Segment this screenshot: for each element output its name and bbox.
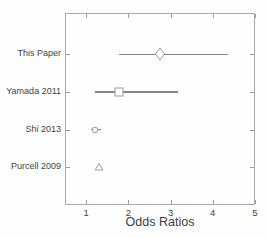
- x-tick-mark: [128, 14, 129, 18]
- y-tick-mark: [250, 167, 254, 168]
- marker-square: [111, 84, 127, 100]
- y-tick-mark: [66, 92, 70, 93]
- ci-line: [95, 91, 178, 93]
- plot-area: [65, 13, 255, 205]
- x-tick-mark: [171, 200, 172, 204]
- forest-plot-figure: This PaperYamada 2011Shi 2013Purcell 200…: [0, 0, 268, 238]
- y-tick-mark: [66, 167, 70, 168]
- x-tick-mark: [213, 200, 214, 204]
- x-tick-mark: [128, 200, 129, 204]
- study-label: Shi 2013: [0, 124, 61, 134]
- marker-diamond: [152, 46, 168, 62]
- x-axis-title: Odds Ratios: [65, 215, 255, 229]
- x-tick-mark: [86, 14, 87, 18]
- marker-triangle: [91, 159, 107, 175]
- study-label: Yamada 2011: [0, 86, 61, 96]
- y-tick-mark: [250, 92, 254, 93]
- y-tick-mark: [250, 130, 254, 131]
- y-tick-mark: [250, 54, 254, 55]
- x-tick-mark: [255, 14, 256, 18]
- y-tick-mark: [66, 54, 70, 55]
- marker-circle: [87, 122, 103, 138]
- x-tick-mark: [213, 14, 214, 18]
- study-label: This Paper: [0, 48, 61, 58]
- x-tick-mark: [171, 14, 172, 18]
- y-tick-mark: [66, 130, 70, 131]
- x-tick-mark: [255, 200, 256, 204]
- x-tick-mark: [86, 200, 87, 204]
- study-label: Purcell 2009: [0, 161, 61, 171]
- ci-line: [119, 54, 228, 56]
